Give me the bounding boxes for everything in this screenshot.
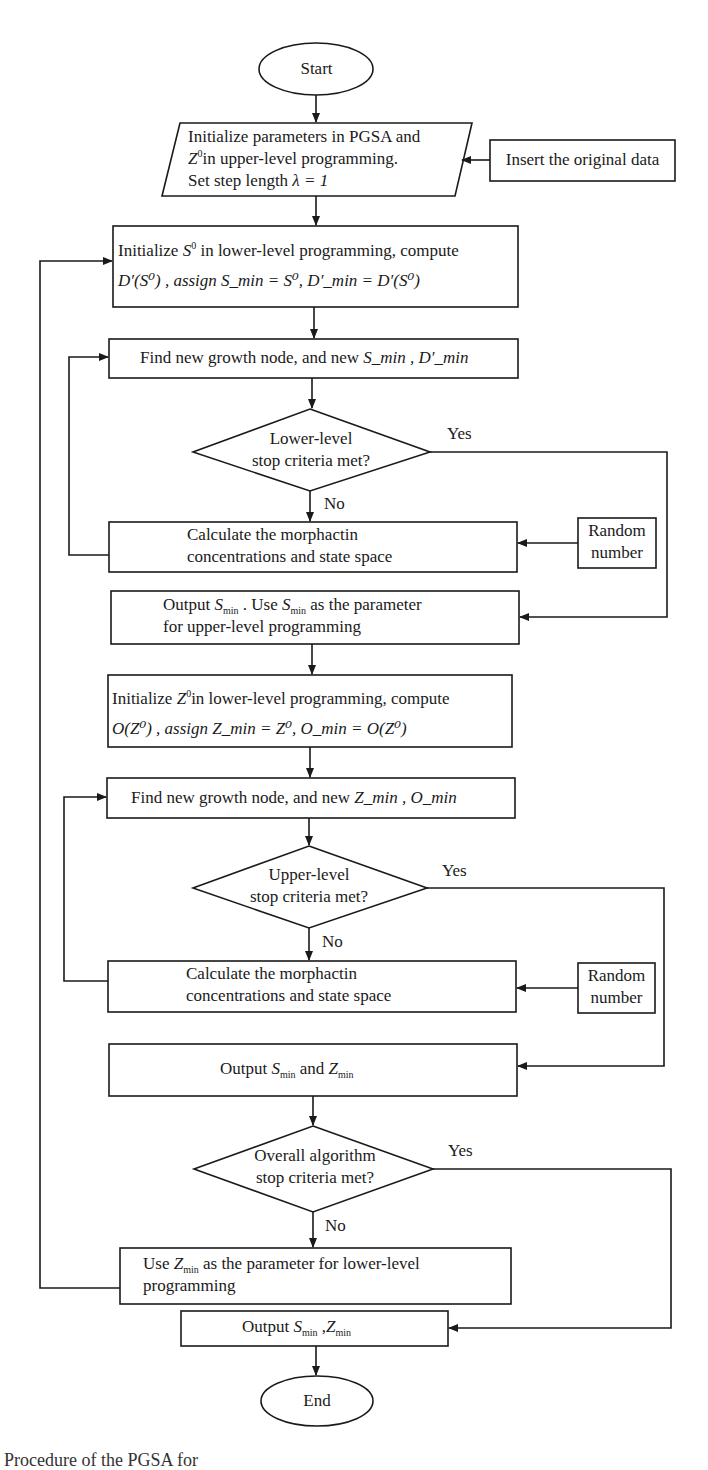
output-s-post: as the parameter [310,595,421,614]
init-upper-line2: in upper-level programming. [202,149,398,168]
init-upper-step: Initialize parameters in PGSA and Z0in u… [188,126,468,192]
sup-zero: 0 [191,240,196,251]
z-var: Z [326,1317,335,1336]
decision-overall-yes: Yes [448,1141,473,1161]
random-number-1: Random number [578,520,656,564]
sub-min: min [183,1264,199,1275]
sub-min: min [280,1069,296,1080]
output-sz-pre: Output [220,1059,267,1078]
s-var: S [214,595,223,614]
s-var: S [293,1317,302,1336]
init-lower-assign: D′(S⁰) , assign S_min = S⁰, D′_min = D′(… [118,271,420,290]
insert-data-label: Insert the original data [506,150,659,169]
init-z-assign: O(Z⁰) , assign Z_min = Z⁰, O_min = O(Z⁰) [112,719,407,738]
init-lower-step: Initialize S0 in lower-level programming… [118,236,518,296]
calc1-line2: concentrations and state space [187,546,507,568]
random-number-2: Random number [578,965,655,1009]
sub-min: min [223,605,239,616]
s-var: S [271,1059,280,1078]
init-upper-line1: Initialize parameters in PGSA and [188,126,468,148]
decision-overall-no: No [325,1216,346,1236]
s-var: S [183,241,192,260]
output-final-pre: Output [242,1317,289,1336]
decision-upper-no: No [322,932,343,952]
init-lower-rest: in lower-level programming, compute [200,241,458,260]
decision-lower-line1: Lower-level [220,428,402,450]
output-s-pre: Output [163,595,210,614]
calc2-line2: concentrations and state space [186,985,506,1007]
decision-upper-line1: Upper-level [218,864,400,886]
output-sz-mid: and [300,1059,325,1078]
find-growth-node-z: Find new growth node, and new Z_min , O_… [131,787,457,809]
z-var: Z [177,689,186,708]
output-s-line2: for upper-level programming [163,616,513,638]
end-label: End [303,1391,330,1410]
z-var: Z [174,1254,183,1273]
random1-line1: Random [578,520,656,542]
calc2-line1: Calculate the morphactin [186,963,506,985]
start-terminal: Start [260,58,373,80]
end-terminal: End [261,1390,373,1412]
calc-morphactin-1: Calculate the morphactin concentrations … [187,524,507,568]
find-s-text: Find new growth node, and new [140,348,359,367]
calc-morphactin-2: Calculate the morphactin concentrations … [186,963,506,1007]
sub-min: min [338,1069,354,1080]
find-z-vars: Z_min , O_min [354,788,456,807]
random2-line1: Random [578,965,655,987]
init-z-step: Initialize Z0in lower-level programming,… [112,684,512,744]
random1-line2: number [578,542,656,564]
init-z-pre: Initialize [112,689,172,708]
decision-upper-line2: stop criteria met? [218,886,400,908]
output-s-min: Output Smin . Use Smin as the parameter … [163,594,513,638]
output-final: Output Smin ,Zmin [242,1316,351,1338]
use-z-post: as the parameter for lower-level [203,1254,420,1273]
random2-line2: number [578,987,655,1009]
decision-upper-level: Upper-level stop criteria met? [218,864,400,908]
decision-overall-line1: Overall algorithm [220,1145,410,1167]
sub-min: min [336,1327,352,1338]
decision-upper-yes: Yes [442,861,467,881]
use-z-line2: programming [143,1275,503,1297]
decision-lower-line2: stop criteria met? [220,450,402,472]
decision-overall: Overall algorithm stop criteria met? [220,1145,410,1189]
output-s-and-z: Output Smin and Zmin [220,1058,354,1080]
lambda-eq: λ = 1 [292,171,328,190]
decision-overall-line2: stop criteria met? [220,1167,410,1189]
init-lower-pre: Initialize [118,241,178,260]
find-s-vars: S_min , D′_min [363,348,468,367]
output-s-mid: . Use [243,595,278,614]
start-label: Start [300,59,332,78]
init-upper-line3: Set step length [188,171,288,190]
init-z-rest: in lower-level programming, compute [191,689,449,708]
decision-lower-no: No [324,494,345,514]
z-var: Z [329,1059,338,1078]
use-z-min-step: Use Zmin as the parameter for lower-leve… [143,1253,503,1297]
use-z-pre: Use [143,1254,169,1273]
calc1-line1: Calculate the morphactin [187,524,507,546]
find-growth-node-s: Find new growth node, and new S_min , D′… [140,347,469,369]
sub-min: min [291,605,307,616]
insert-data-box: Insert the original data [490,149,675,171]
s-var: S [282,595,291,614]
figure-caption: Procedure of the PGSA for [4,1450,198,1470]
decision-lower-yes: Yes [447,424,472,444]
decision-lower-level: Lower-level stop criteria met? [220,428,402,472]
find-z-text: Find new growth node, and new [131,788,350,807]
sub-min: min [302,1327,318,1338]
